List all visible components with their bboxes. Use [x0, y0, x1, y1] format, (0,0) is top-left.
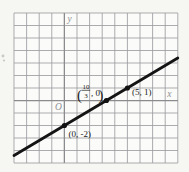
scan-artifact-mark	[3, 59, 5, 61]
fraction-denominator: 3	[84, 92, 88, 100]
scan-artifact-mark	[2, 55, 5, 58]
fraction-open-paren: (	[77, 87, 82, 104]
coordinate-plane-figure: yxO(0, -2)(103, 0)(5, 1)	[0, 0, 189, 172]
origin-label: O	[55, 102, 62, 112]
fraction-close-paren: )	[98, 87, 103, 104]
graph-svg: yxO(0, -2)(103, 0)(5, 1)	[0, 0, 189, 172]
point-dot	[104, 98, 109, 103]
point-label: (5, 1)	[132, 87, 152, 97]
point-label: (0, -2)	[68, 129, 91, 139]
point-dot	[125, 85, 130, 90]
y-axis-label: y	[67, 14, 73, 24]
x-axis-label: x	[166, 89, 172, 99]
point-dot	[62, 123, 67, 128]
fraction-numerator: 10	[82, 83, 90, 91]
